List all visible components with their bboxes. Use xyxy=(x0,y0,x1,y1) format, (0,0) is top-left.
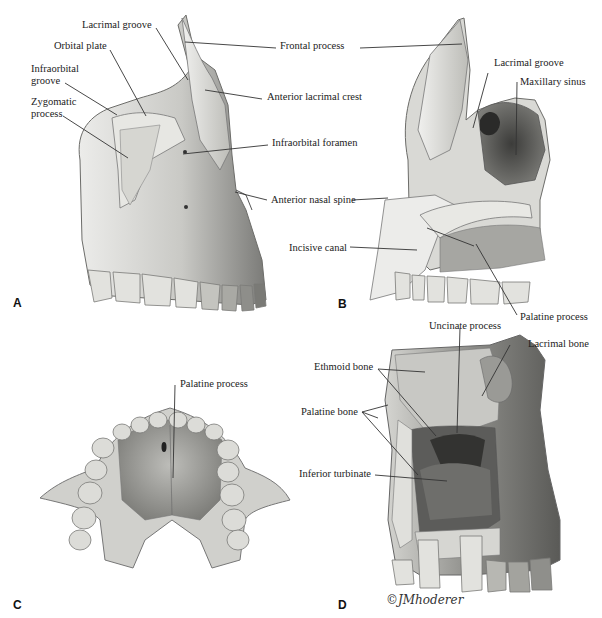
panel-letter-a: A xyxy=(13,296,22,310)
panel-letter-d: D xyxy=(338,598,347,612)
maxilla-figure: Lacrimal groove Orbital plate Infraorbit… xyxy=(0,0,602,618)
label-incisive-canal: Incisive canal xyxy=(289,242,347,254)
artist-signature: ©JMhoderer xyxy=(386,593,463,607)
label-palatine-process-b: Palatine process xyxy=(520,311,588,323)
panel-a-illustration xyxy=(79,15,266,311)
label-inferior-turbinate: Inferior turbinate xyxy=(299,468,371,480)
label-lacrimal-groove-a: Lacrimal groove xyxy=(82,19,152,31)
label-infraorbital-foramen: Infraorbital foramen xyxy=(272,137,357,149)
label-anterior-lacrimal-crest: Anterior lacrimal crest xyxy=(267,91,362,103)
label-infraorbital-groove: Infraorbital groove xyxy=(31,63,81,87)
label-frontal-process: Frontal process xyxy=(280,40,344,52)
label-maxillary-sinus: Maxillary sinus xyxy=(520,76,586,88)
panel-c-illustration xyxy=(40,408,290,568)
label-uncinate-process: Uncinate process xyxy=(429,320,501,332)
label-orbital-plate: Orbital plate xyxy=(54,40,107,52)
panel-d-illustration xyxy=(385,335,560,592)
label-anterior-nasal-spine: Anterior nasal spine xyxy=(271,194,356,206)
panel-letter-c: C xyxy=(13,598,22,612)
label-zygomatic-process: Zygomatic process xyxy=(31,96,91,120)
label-ethmoid-bone: Ethmoid bone xyxy=(314,361,373,373)
label-lacrimal-bone: Lacrimal bone xyxy=(528,338,589,350)
label-lacrimal-groove-b: Lacrimal groove xyxy=(494,57,564,69)
label-palatine-bone: Palatine bone xyxy=(301,406,358,418)
label-palatine-process-c: Palatine process xyxy=(180,378,248,390)
panel-letter-b: B xyxy=(338,297,347,311)
